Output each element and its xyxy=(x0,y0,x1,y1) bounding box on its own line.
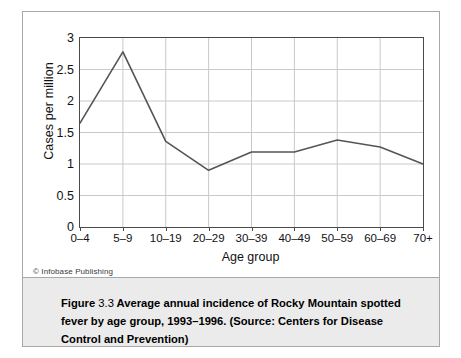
x-axis-title: Age group xyxy=(79,250,422,264)
y-axis-tick-label: 2 xyxy=(67,94,74,108)
x-axis-tick-label: 5–9 xyxy=(113,232,132,244)
figure-frame: Cases per million 00.511.522.53 0–45–910… xyxy=(22,11,440,347)
x-axis-tick-mark xyxy=(209,227,210,231)
y-axis-tick-label: 3 xyxy=(67,31,74,45)
series-line-chart xyxy=(80,38,423,227)
x-axis-tick-label: 70+ xyxy=(413,232,433,244)
figure-caption: Figure 3.3 Average annual incidence of R… xyxy=(61,294,417,348)
x-axis-tick-label: 0–4 xyxy=(70,232,89,244)
x-axis-tick-label: 60–69 xyxy=(364,232,396,244)
y-axis-tick-label: 0.5 xyxy=(57,189,74,203)
x-axis-tick-mark xyxy=(166,227,167,231)
y-axis-title: Cases per million xyxy=(42,41,56,181)
x-axis-tick-mark xyxy=(423,227,424,231)
plot-area: 00.511.522.53 0–45–910–1920–2930–3940–49… xyxy=(79,37,424,228)
y-axis-tick-label: 1.5 xyxy=(57,126,74,140)
copyright-notice: © Infobase Publishing xyxy=(33,267,113,276)
x-axis-tick-mark xyxy=(337,227,338,231)
x-axis-tick-label: 30–39 xyxy=(236,232,268,244)
x-axis-tick-label: 20–29 xyxy=(193,232,225,244)
x-axis-tick-label: 50–59 xyxy=(321,232,353,244)
series-line xyxy=(80,52,423,170)
x-axis-tick-mark xyxy=(294,227,295,231)
caption-label: Figure xyxy=(61,297,95,309)
y-axis-tick-label: 2.5 xyxy=(57,63,74,77)
y-axis-tick-label: 1 xyxy=(67,157,74,171)
x-axis-tick-label: 10–19 xyxy=(150,232,182,244)
x-axis-tick-label: 40–49 xyxy=(278,232,310,244)
x-axis-tick-mark xyxy=(252,227,253,231)
x-axis-tick-mark xyxy=(80,227,81,231)
chart-panel: Cases per million 00.511.522.53 0–45–910… xyxy=(23,12,439,277)
x-axis-tick-mark xyxy=(380,227,381,231)
x-axis-tick-mark xyxy=(123,227,124,231)
caption-band: Figure 3.3 Average annual incidence of R… xyxy=(23,277,439,346)
caption-number: 3.3 xyxy=(98,297,114,309)
